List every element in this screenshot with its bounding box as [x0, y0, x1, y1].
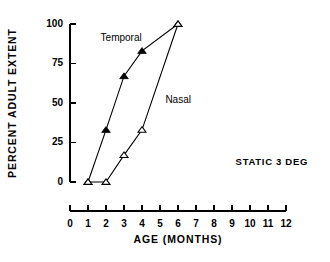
data-point-nasal — [120, 152, 128, 157]
y-axis-ticks — [70, 24, 76, 182]
y-tick-label: 75 — [52, 57, 64, 68]
chart-annotations: STATIC 3 DEG — [236, 156, 308, 167]
x-tick-label: 9 — [229, 218, 235, 229]
x-tick-label: 2 — [103, 218, 109, 229]
series-label-nasal: Nasal — [165, 94, 191, 105]
y-tick-label: 100 — [46, 18, 63, 29]
y-axis: 0255075100 — [46, 18, 76, 187]
x-tick-label: 8 — [211, 218, 217, 229]
x-axis-title: AGE (MONTHS) — [134, 233, 223, 245]
chart-canvas: 0255075100 0123456789101112 TemporalNasa… — [0, 0, 330, 262]
data-point-nasal — [174, 21, 182, 26]
y-axis-tick-labels: 0255075100 — [46, 18, 63, 187]
data-point-temporal — [102, 127, 111, 133]
y-tick-label: 0 — [57, 176, 63, 187]
x-tick-label: 10 — [244, 218, 256, 229]
x-tick-label: 7 — [193, 218, 199, 229]
x-tick-label: 6 — [175, 218, 181, 229]
chart-figure: 0255075100 0123456789101112 TemporalNasa… — [0, 0, 330, 262]
series-label-temporal: Temporal — [101, 32, 142, 43]
y-tick-label: 50 — [52, 97, 64, 108]
y-axis-title: PERCENT ADULT EXTENT — [6, 28, 18, 178]
annotation-static-3-deg: STATIC 3 DEG — [236, 156, 308, 167]
data-point-nasal — [138, 127, 146, 132]
x-tick-label: 12 — [280, 218, 292, 229]
x-tick-label: 11 — [263, 218, 274, 229]
x-axis-ticks — [70, 205, 286, 211]
series-inline-labels: TemporalNasal — [101, 32, 191, 105]
x-tick-label: 0 — [67, 218, 73, 229]
y-tick-label: 25 — [52, 136, 64, 147]
x-axis: 0123456789101112 — [67, 205, 292, 229]
x-tick-label: 5 — [157, 218, 163, 229]
x-tick-label: 3 — [121, 218, 127, 229]
data-point-temporal — [120, 73, 129, 79]
x-tick-label: 1 — [85, 218, 91, 229]
x-tick-label: 4 — [139, 218, 145, 229]
x-axis-tick-labels: 0123456789101112 — [67, 218, 292, 229]
